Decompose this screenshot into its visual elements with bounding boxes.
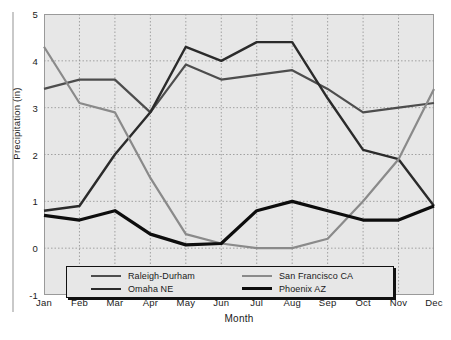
x-axis-tick-labels: JanFebMarAprMayJunJulAugSepOctNovDec <box>44 297 434 313</box>
x-axis-tick: May <box>177 297 196 308</box>
y-axis-tick: 2 <box>33 149 38 160</box>
x-axis-tick: Nov <box>390 297 408 308</box>
data-series-line <box>44 65 434 113</box>
x-axis-tick: Jan <box>36 297 52 308</box>
x-axis-tick: Mar <box>106 297 123 308</box>
legend-line-swatch <box>242 287 272 290</box>
legend-line-swatch <box>91 288 121 290</box>
chart-page: Precipitation (in) 543210-1 JanFebMarApr… <box>0 0 451 340</box>
x-axis-tick: Feb <box>71 297 88 308</box>
y-axis-tick-labels: 543210-1 <box>0 14 42 295</box>
chart-lines-svg <box>44 14 434 295</box>
y-axis-tick: 0 <box>33 243 38 254</box>
y-axis-tick: 5 <box>33 9 38 20</box>
x-axis-tick: Oct <box>355 297 370 308</box>
x-axis-tick: Sep <box>319 297 337 308</box>
chart-plot-frame <box>44 14 434 295</box>
legend-item[interactable]: San Francisco CA <box>242 269 393 282</box>
legend-line-swatch <box>91 275 121 277</box>
y-axis-tick: 3 <box>33 102 38 113</box>
x-axis-tick: Dec <box>425 297 443 308</box>
x-axis-tick: Jul <box>250 297 263 308</box>
x-axis-tick: Aug <box>283 297 301 308</box>
y-axis-tick: 1 <box>33 196 38 207</box>
chart-legend: Raleigh-DurhamSan Francisco CAOmaha NEPh… <box>66 266 394 298</box>
x-axis-tick: Jun <box>213 297 229 308</box>
legend-item-label: Raleigh-Durham <box>128 271 195 281</box>
legend-item-label: Phoenix AZ <box>279 284 326 294</box>
x-axis-tick: Apr <box>143 297 158 308</box>
legend-item-label: Omaha NE <box>128 284 173 294</box>
x-axis-title: Month <box>44 313 434 324</box>
data-series-line <box>44 201 434 245</box>
legend-item[interactable]: Omaha NE <box>91 282 242 295</box>
legend-line-swatch <box>242 275 272 277</box>
y-axis-tick: 4 <box>33 55 38 66</box>
legend-item[interactable]: Raleigh-Durham <box>91 269 242 282</box>
legend-item[interactable]: Phoenix AZ <box>242 282 393 295</box>
legend-item-label: San Francisco CA <box>279 271 353 281</box>
